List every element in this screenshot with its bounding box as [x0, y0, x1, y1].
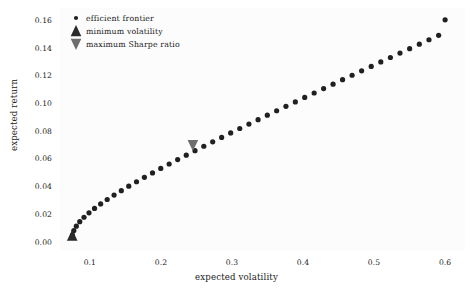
data-point	[142, 175, 147, 180]
y-tick-label: 0.16	[14, 15, 52, 24]
y-tick-label: 0.08	[14, 126, 52, 135]
data-point	[228, 130, 233, 135]
data-point	[98, 201, 103, 206]
x-tick-label: 0.6	[439, 258, 451, 267]
data-point	[349, 73, 354, 78]
data-point	[126, 184, 131, 189]
data-point	[237, 126, 242, 131]
data-point	[293, 99, 298, 104]
data-point	[265, 113, 270, 118]
data-point	[86, 210, 91, 215]
x-tick-label: 0.3	[226, 258, 238, 267]
x-axis-label: expected volatility	[0, 272, 473, 282]
data-point	[378, 59, 383, 64]
legend-triangle-up-icon	[66, 25, 86, 37]
data-point	[397, 50, 402, 55]
y-axis-label: expected return	[9, 55, 19, 175]
maximum-sharpe-marker	[71, 39, 82, 50]
data-point	[369, 64, 374, 69]
data-point	[167, 161, 172, 166]
data-point	[175, 157, 180, 162]
legend-triangle-down-icon	[66, 38, 86, 50]
x-tick-label: 0.1	[84, 258, 96, 267]
legend-item: maximum Sharpe ratio	[66, 38, 180, 50]
data-point	[201, 144, 206, 149]
y-tick-label: 0.04	[14, 182, 52, 191]
data-point	[134, 179, 139, 184]
data-point	[255, 117, 260, 122]
chart-legend: efficient frontierminimum volatilitymaxi…	[62, 10, 184, 52]
data-point	[150, 170, 155, 175]
data-point	[426, 37, 431, 42]
y-tick-label: 0.06	[14, 154, 52, 163]
data-point	[111, 192, 116, 197]
legend-item-label: minimum volatility	[86, 27, 163, 36]
x-tick-label: 0.5	[368, 258, 380, 267]
y-tick-label: 0.10	[14, 98, 52, 107]
data-point	[388, 55, 393, 60]
data-point	[321, 86, 326, 91]
data-point	[330, 82, 335, 87]
data-point	[158, 166, 163, 171]
x-tick-label: 0.2	[155, 258, 167, 267]
data-point	[283, 104, 288, 109]
data-point	[407, 46, 412, 51]
data-point	[246, 121, 251, 126]
data-point	[92, 206, 97, 211]
data-point	[359, 68, 364, 73]
y-tick-label: 0.00	[14, 237, 52, 246]
x-tick-label: 0.4	[297, 258, 309, 267]
data-point	[210, 139, 215, 144]
minimum-volatility-marker	[71, 25, 82, 36]
legend-item-label: efficient frontier	[86, 14, 154, 23]
data-point	[184, 153, 189, 158]
data-point	[219, 135, 224, 140]
legend-item: efficient frontier	[66, 12, 180, 24]
data-point	[312, 90, 317, 95]
data-point	[302, 95, 307, 100]
data-point	[340, 77, 345, 82]
data-point	[74, 16, 78, 20]
legend-item-label: maximum Sharpe ratio	[86, 40, 180, 49]
y-tick-label: 0.14	[14, 43, 52, 52]
data-point	[81, 215, 86, 220]
legend-item: minimum volatility	[66, 25, 180, 37]
data-point	[417, 42, 422, 47]
data-point	[77, 219, 82, 224]
data-point	[436, 33, 441, 38]
data-point	[443, 17, 448, 22]
data-point	[74, 224, 79, 229]
data-point	[105, 197, 110, 202]
legend-circle-icon	[66, 12, 86, 24]
chart-figure: 0.000.020.040.060.080.100.120.140.16 0.1…	[0, 0, 473, 295]
data-point	[274, 108, 279, 113]
data-point	[119, 188, 124, 193]
y-tick-label: 0.02	[14, 209, 52, 218]
y-tick-label: 0.12	[14, 71, 52, 80]
